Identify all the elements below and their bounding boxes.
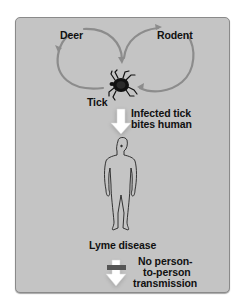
no-transmission-arrow: [106, 260, 126, 288]
node-deer: Deer: [60, 30, 83, 41]
human-figure-icon: [105, 137, 137, 230]
node-rodent: Rodent: [157, 30, 193, 41]
node-lyme-disease: Lyme disease: [89, 240, 156, 251]
no-transmission-line3: transmission: [133, 278, 197, 289]
bite-label-line2: bites human: [131, 119, 192, 130]
bite-arrow: [110, 109, 132, 136]
block-bar: [107, 265, 126, 270]
node-tick: Tick: [87, 97, 107, 108]
tick-icon: [109, 70, 137, 100]
diagram-artwork: [0, 0, 245, 304]
